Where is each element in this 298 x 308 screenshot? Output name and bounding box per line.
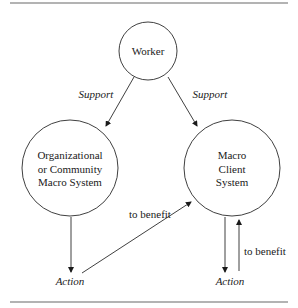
support-label-left: Support xyxy=(79,88,115,100)
action-label-right: Action xyxy=(215,275,245,287)
support-arrow-right xyxy=(168,77,197,126)
client-label-line-2: Client xyxy=(219,163,246,175)
org-label-line-3: Macro System xyxy=(38,176,102,188)
benefit-label-diagonal: to benefit xyxy=(129,208,171,220)
org-label-line-1: Organizational xyxy=(37,149,102,161)
diagram-canvas: Worker Support Support Organizational or… xyxy=(0,0,298,308)
macro-client-system-node: Macro Client System xyxy=(184,120,280,216)
org-macro-system-node: Organizational or Community Macro System xyxy=(22,120,118,216)
support-arrow-left xyxy=(106,77,134,126)
org-label-line-2: or Community xyxy=(38,163,103,175)
support-label-right: Support xyxy=(193,88,229,100)
client-label-line-3: System xyxy=(216,176,249,188)
action-label-left: Action xyxy=(55,275,85,287)
worker-node: Worker xyxy=(119,22,177,80)
benefit-label-vertical: to benefit xyxy=(244,245,286,257)
client-label-line-1: Macro xyxy=(218,149,247,161)
worker-label: Worker xyxy=(132,45,165,57)
